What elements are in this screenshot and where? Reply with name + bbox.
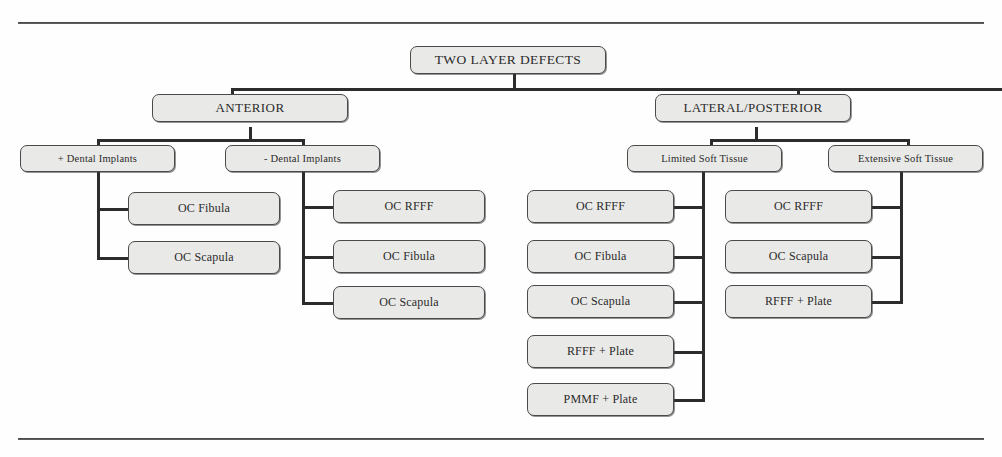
node-label: OC Fibula bbox=[174, 202, 234, 215]
footer-rule bbox=[18, 438, 984, 440]
connector-extensive-stub-3 bbox=[871, 301, 903, 304]
connector-limited-stub-3 bbox=[673, 301, 705, 304]
leaf-anterior-minus-3[interactable]: OC Scapula bbox=[333, 286, 485, 319]
connector-plus-stub-1 bbox=[97, 208, 129, 211]
connector-extensive-stub-1 bbox=[871, 206, 903, 209]
leaf-anterior-plus-2[interactable]: OC Scapula bbox=[128, 241, 280, 274]
node-label: OC Scapula bbox=[170, 251, 238, 264]
node-label: RFFF + Plate bbox=[563, 345, 638, 358]
connector-limited-stub-2 bbox=[673, 256, 705, 259]
connector-minus-stub-3 bbox=[302, 302, 334, 305]
connector-limited-stub-4 bbox=[673, 351, 705, 354]
node-plus-dental-implants[interactable]: + Dental Implants bbox=[20, 145, 175, 172]
header-rule bbox=[18, 22, 984, 24]
node-anterior[interactable]: ANTERIOR bbox=[152, 94, 348, 122]
leaf-anterior-minus-1[interactable]: OC RFFF bbox=[333, 190, 485, 223]
node-minus-dental-implants[interactable]: - Dental Implants bbox=[225, 145, 380, 172]
node-label: + Dental Implants bbox=[54, 153, 141, 164]
node-label: Limited Soft Tissue bbox=[657, 153, 752, 164]
node-label: ANTERIOR bbox=[212, 101, 289, 115]
node-label: LATERAL/POSTERIOR bbox=[680, 101, 827, 115]
node-label: OC Scapula bbox=[375, 296, 443, 309]
node-label: OC RFFF bbox=[572, 200, 629, 213]
scanned-page: TWO LAYER DEFECTS ANTERIOR LATERAL/POSTE… bbox=[0, 0, 1002, 457]
connector-extensive-stub-2 bbox=[871, 256, 903, 259]
leaf-limited-1[interactable]: OC RFFF bbox=[527, 190, 674, 223]
connector-minus-stub-2 bbox=[302, 256, 334, 259]
node-label: OC RFFF bbox=[770, 200, 827, 213]
connector-root-bar-fix bbox=[231, 88, 800, 91]
leaf-limited-3[interactable]: OC Scapula bbox=[527, 285, 674, 318]
node-label: - Dental Implants bbox=[260, 153, 345, 164]
connector-limited-stub-1 bbox=[673, 206, 705, 209]
leaf-limited-4[interactable]: RFFF + Plate bbox=[527, 335, 674, 368]
connector-extensive-spine bbox=[900, 172, 903, 304]
node-label: OC Scapula bbox=[765, 250, 833, 263]
connector-anterior-bar bbox=[97, 139, 305, 142]
leaf-extensive-1[interactable]: OC RFFF bbox=[725, 190, 872, 223]
leaf-anterior-minus-2[interactable]: OC Fibula bbox=[333, 240, 485, 273]
node-label: OC Fibula bbox=[379, 250, 439, 263]
node-lateral-posterior[interactable]: LATERAL/POSTERIOR bbox=[655, 94, 851, 122]
node-label: Extensive Soft Tissue bbox=[854, 153, 957, 164]
connector-minus-spine bbox=[302, 172, 305, 302]
node-label: OC Fibula bbox=[570, 250, 630, 263]
connector-plus-spine bbox=[97, 172, 100, 260]
connector-minus-stub-1 bbox=[302, 206, 334, 209]
node-label: OC Scapula bbox=[567, 295, 635, 308]
node-root-two-layer-defects[interactable]: TWO LAYER DEFECTS bbox=[410, 46, 606, 74]
leaf-extensive-3[interactable]: RFFF + Plate bbox=[725, 285, 872, 318]
node-extensive-soft-tissue[interactable]: Extensive Soft Tissue bbox=[828, 145, 983, 172]
node-label: OC RFFF bbox=[380, 200, 437, 213]
node-label: RFFF + Plate bbox=[761, 295, 836, 308]
node-limited-soft-tissue[interactable]: Limited Soft Tissue bbox=[627, 145, 782, 172]
connector-lateral-bar bbox=[710, 139, 910, 142]
leaf-limited-2[interactable]: OC Fibula bbox=[527, 240, 674, 273]
leaf-anterior-plus-1[interactable]: OC Fibula bbox=[128, 192, 280, 225]
node-label: TWO LAYER DEFECTS bbox=[431, 53, 586, 67]
leaf-extensive-2[interactable]: OC Scapula bbox=[725, 240, 872, 273]
connector-plus-stub-2 bbox=[97, 257, 129, 260]
leaf-limited-5[interactable]: PMMF + Plate bbox=[527, 383, 674, 416]
node-label: PMMF + Plate bbox=[560, 393, 642, 406]
connector-limited-stub-5 bbox=[673, 399, 705, 402]
